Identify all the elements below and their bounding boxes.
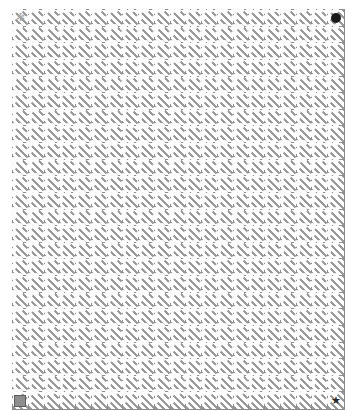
grid-cell[interactable] (29, 309, 45, 326)
grid-cell[interactable] (218, 243, 234, 260)
grid-cell[interactable] (281, 293, 297, 310)
grid-cell[interactable] (234, 110, 250, 127)
grid-cell[interactable] (123, 126, 139, 143)
grid-cell[interactable] (281, 259, 297, 276)
grid-cell[interactable] (45, 226, 61, 243)
grid-cell[interactable] (218, 359, 234, 376)
grid-cell[interactable] (13, 359, 29, 376)
grid-cell[interactable] (108, 77, 124, 94)
grid-cell[interactable] (186, 27, 202, 44)
grid-cell[interactable] (265, 43, 281, 60)
grid-cell[interactable] (234, 143, 250, 160)
grid-cell[interactable] (60, 43, 76, 60)
grid-cell[interactable] (186, 276, 202, 293)
grid-cell[interactable] (60, 392, 76, 409)
grid-cell[interactable] (60, 60, 76, 77)
grid-cell[interactable] (265, 93, 281, 110)
grid-cell[interactable] (139, 309, 155, 326)
grid-cell[interactable] (123, 43, 139, 60)
grid-cell[interactable] (139, 143, 155, 160)
grid-cell[interactable] (328, 193, 344, 210)
grid-cell[interactable] (13, 343, 29, 360)
grid-cell[interactable] (29, 210, 45, 227)
grid-cell[interactable] (265, 226, 281, 243)
grid-cell[interactable] (76, 343, 92, 360)
grid-cell[interactable] (265, 392, 281, 409)
grid-cell[interactable] (186, 343, 202, 360)
grid-cell[interactable] (60, 176, 76, 193)
grid-cell[interactable] (234, 160, 250, 177)
grid-cell[interactable] (202, 77, 218, 94)
grid-cell[interactable] (171, 226, 187, 243)
grid-cell[interactable] (328, 77, 344, 94)
grid-cell[interactable] (123, 143, 139, 160)
grid-cell[interactable] (108, 359, 124, 376)
grid-cell[interactable] (45, 193, 61, 210)
grid-cell[interactable] (155, 160, 171, 177)
grid-cell[interactable] (92, 226, 108, 243)
grid-cell[interactable] (297, 343, 313, 360)
grid-cell[interactable] (45, 392, 61, 409)
grid-cell[interactable] (234, 210, 250, 227)
grid-cell[interactable] (234, 226, 250, 243)
grid-cell[interactable] (139, 376, 155, 393)
grid-cell[interactable] (312, 226, 328, 243)
grid-cell[interactable] (76, 259, 92, 276)
grid-cell[interactable] (202, 27, 218, 44)
grid-cell[interactable] (92, 376, 108, 393)
grid-cell[interactable] (171, 10, 187, 27)
grid-cell[interactable] (92, 309, 108, 326)
grid-cell[interactable] (234, 359, 250, 376)
grid-cell[interactable] (312, 343, 328, 360)
grid-cell[interactable] (139, 259, 155, 276)
grid-cell[interactable] (249, 126, 265, 143)
grid-cell[interactable] (202, 193, 218, 210)
grid-cell[interactable] (139, 43, 155, 60)
grid-cell[interactable] (297, 259, 313, 276)
grid-cell[interactable] (45, 259, 61, 276)
grid-cell[interactable] (45, 60, 61, 77)
grid-cell[interactable] (297, 226, 313, 243)
grid-cell[interactable] (202, 60, 218, 77)
grid-cell[interactable] (45, 126, 61, 143)
grid-cell[interactable] (249, 376, 265, 393)
grid-cell[interactable] (76, 143, 92, 160)
grid-cell[interactable] (186, 259, 202, 276)
grid-cell[interactable] (13, 27, 29, 44)
grid-cell[interactable] (45, 143, 61, 160)
grid-cell[interactable] (186, 160, 202, 177)
grid-cell[interactable] (108, 93, 124, 110)
grid-cell[interactable] (123, 343, 139, 360)
grid-cell[interactable] (265, 326, 281, 343)
grid-cell[interactable] (202, 309, 218, 326)
grid-cell[interactable] (186, 210, 202, 227)
grid-cell[interactable] (297, 309, 313, 326)
grid-cell[interactable] (92, 93, 108, 110)
grid-cell[interactable] (265, 276, 281, 293)
grid-cell[interactable] (171, 326, 187, 343)
grid-cell[interactable] (13, 93, 29, 110)
grid-cell[interactable] (312, 193, 328, 210)
grid-cell[interactable] (108, 392, 124, 409)
grid-cell[interactable] (281, 126, 297, 143)
grid-cell[interactable] (281, 160, 297, 177)
grid-cell[interactable] (139, 293, 155, 310)
grid-cell[interactable] (297, 126, 313, 143)
grid-cell[interactable] (171, 193, 187, 210)
grid-cell[interactable] (92, 359, 108, 376)
grid-cell[interactable] (186, 43, 202, 60)
grid-cell[interactable] (155, 343, 171, 360)
grid-cell[interactable] (281, 276, 297, 293)
grid-cell[interactable] (265, 126, 281, 143)
grid-cell[interactable] (186, 176, 202, 193)
grid-cell[interactable] (60, 293, 76, 310)
grid-cell[interactable] (60, 193, 76, 210)
grid-cell[interactable] (45, 359, 61, 376)
grid-cell[interactable] (155, 60, 171, 77)
grid-cell[interactable] (29, 193, 45, 210)
grid-cell[interactable] (281, 210, 297, 227)
grid-cell[interactable] (202, 43, 218, 60)
grid-cell[interactable] (123, 226, 139, 243)
grid-cell[interactable] (281, 176, 297, 193)
grid-cell[interactable] (29, 176, 45, 193)
